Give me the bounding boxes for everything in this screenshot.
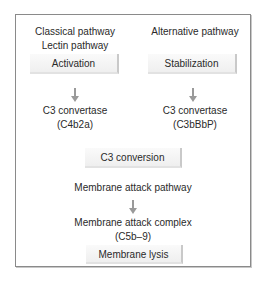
arrow-down-icon (128, 200, 138, 214)
alternative-pathway-label: Alternative pathway (140, 25, 250, 38)
c4b2a-label: (C4b2a) (20, 118, 130, 131)
membrane-attack-complex-label: Membrane attack complex (40, 216, 226, 229)
c3-conversion-box: C3 conversion (85, 148, 182, 168)
arrow-down-icon (188, 88, 198, 102)
stabilization-box: Stabilization (148, 54, 237, 74)
c3-convertase-right-label: C3 convertase (140, 104, 250, 117)
c3-convertase-left-label: C3 convertase (20, 104, 130, 117)
arrow-down-icon (70, 88, 80, 102)
c3bbbp-label: (C3bBbP) (140, 118, 250, 131)
membrane-lysis-box: Membrane lysis (86, 245, 183, 264)
activation-box: Activation (30, 54, 119, 74)
c5b-9-label: (C5b–9) (40, 230, 226, 243)
membrane-attack-pathway-label: Membrane attack pathway (40, 181, 226, 194)
lectin-pathway-label: Lectin pathway (20, 39, 130, 52)
classical-pathway-label: Classical pathway (20, 25, 130, 38)
